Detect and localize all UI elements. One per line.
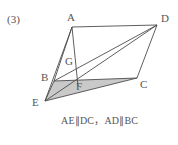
geometry-figure: (3) A D B C E F G AE∥DC，AD∥BC	[0, 0, 178, 145]
vertex-label-D: D	[161, 13, 169, 24]
vertex-label-A: A	[67, 12, 75, 23]
segment-AD	[72, 25, 157, 27]
segment-DC	[137, 25, 157, 78]
parallel-conditions-caption: AE∥DC，AD∥BC	[61, 115, 138, 127]
vertex-label-G: G	[65, 56, 73, 67]
vertex-label-B: B	[41, 72, 48, 83]
vertex-label-E: E	[32, 97, 39, 108]
vertex-label-F: F	[76, 81, 82, 92]
vertex-label-C: C	[140, 79, 147, 90]
